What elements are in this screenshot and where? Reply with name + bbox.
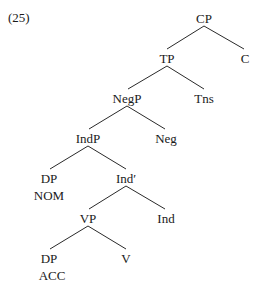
node-indp: IndP bbox=[76, 132, 101, 145]
edge-negp-indp bbox=[89, 106, 127, 129]
node-v: V bbox=[121, 252, 130, 265]
edge-cp-c bbox=[204, 26, 244, 49]
node-cp: CP bbox=[196, 12, 212, 25]
node-neg: Neg bbox=[155, 132, 177, 145]
node-negp: NegP bbox=[113, 92, 142, 105]
node-dp-object: DP bbox=[41, 252, 58, 265]
edge-vp-v bbox=[88, 226, 126, 249]
edge-tp-negp bbox=[128, 66, 167, 89]
edge-indp-dp bbox=[50, 146, 88, 169]
node-vp: VP bbox=[80, 212, 97, 225]
edge-tp-tns bbox=[167, 66, 204, 89]
edge-negp-neg bbox=[127, 106, 165, 129]
node-c: C bbox=[241, 52, 250, 65]
tree-edges bbox=[0, 0, 264, 294]
edge-indbar-ind bbox=[126, 186, 165, 209]
edge-cp-tp bbox=[167, 26, 204, 49]
edge-vp-dp bbox=[50, 226, 88, 249]
case-acc: ACC bbox=[39, 269, 66, 282]
node-tp: TP bbox=[159, 52, 174, 65]
edge-indp-indbar bbox=[88, 146, 126, 169]
case-nom: NOM bbox=[34, 189, 64, 202]
node-ind-bar: Ind′ bbox=[116, 172, 136, 185]
edge-indbar-vp bbox=[89, 186, 126, 209]
node-dp-subject: DP bbox=[41, 172, 58, 185]
node-ind: Ind bbox=[157, 212, 174, 225]
node-tns: Tns bbox=[194, 92, 214, 105]
